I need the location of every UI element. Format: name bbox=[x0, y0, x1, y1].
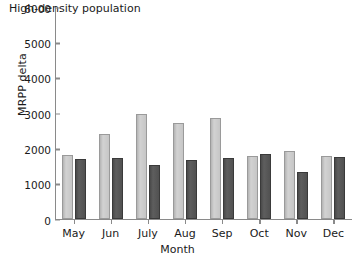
bar-group bbox=[173, 7, 197, 219]
bar-dec-light bbox=[321, 156, 332, 219]
plot-area: 0100020003000400050006000 bbox=[55, 7, 352, 219]
x-axis-tick-label: Oct bbox=[250, 227, 269, 240]
y-axis-tick-mark bbox=[55, 7, 60, 8]
x-axis-tick-label: Sep bbox=[212, 227, 233, 240]
y-axis-tick: 3000 bbox=[24, 104, 55, 123]
bar-aug-light bbox=[173, 123, 184, 219]
y-axis-tick-mark bbox=[55, 184, 60, 185]
bar-jun-dark bbox=[112, 158, 123, 219]
x-axis-tick-label: July bbox=[138, 227, 158, 240]
bar-oct-dark bbox=[260, 154, 271, 219]
bar-dec-dark bbox=[334, 157, 345, 219]
bar-july-light bbox=[136, 114, 147, 219]
x-axis-tick-label: Dec bbox=[323, 227, 344, 240]
x-axis-tick-mark bbox=[296, 219, 297, 224]
bar-may-dark bbox=[75, 159, 86, 219]
x-axis-tick-mark bbox=[185, 219, 186, 224]
bar-sep-light bbox=[210, 118, 221, 219]
bar-jun-light bbox=[99, 134, 110, 220]
bar-group bbox=[247, 7, 271, 219]
bar-chart: MRPP delta High-density population 01000… bbox=[0, 0, 355, 257]
y-axis-tick-label: 1000 bbox=[24, 179, 55, 191]
x-axis-tick-label: May bbox=[62, 227, 85, 240]
y-axis-tick: 6000 bbox=[24, 0, 55, 17]
bar-group bbox=[210, 7, 234, 219]
bar-sep-dark bbox=[223, 158, 234, 219]
x-axis-tick-mark bbox=[148, 219, 149, 224]
y-axis-tick-mark bbox=[55, 219, 60, 220]
x-axis-line bbox=[55, 219, 352, 220]
y-axis-tick: 2000 bbox=[24, 139, 55, 158]
y-axis-tick: 5000 bbox=[24, 33, 55, 52]
y-axis-tick-mark bbox=[55, 149, 60, 150]
bar-group bbox=[62, 7, 86, 219]
bar-oct-light bbox=[247, 156, 258, 219]
y-axis-tick: 0 bbox=[44, 210, 55, 229]
x-axis-tick-mark bbox=[111, 219, 112, 224]
bar-nov-light bbox=[284, 151, 295, 219]
bar-july-dark bbox=[149, 165, 160, 219]
y-axis-tick: 1000 bbox=[24, 174, 55, 193]
y-axis-tick-label: 3000 bbox=[24, 108, 55, 120]
bar-nov-dark bbox=[297, 172, 308, 219]
y-axis-tick: 4000 bbox=[24, 68, 55, 87]
y-axis-tick-mark bbox=[55, 78, 60, 79]
x-axis-tick-mark bbox=[259, 219, 260, 224]
y-axis-tick-label: 6000 bbox=[24, 2, 55, 14]
bar-group bbox=[321, 7, 345, 219]
y-axis-tick-label: 0 bbox=[44, 214, 55, 226]
y-axis-tick-mark bbox=[55, 43, 60, 44]
bar-aug-dark bbox=[186, 160, 197, 219]
bar-group bbox=[284, 7, 308, 219]
y-axis-tick-mark bbox=[55, 113, 60, 114]
y-axis-tick-label: 5000 bbox=[24, 37, 55, 49]
x-axis-title: Month bbox=[0, 243, 355, 256]
x-axis-tick-label: Aug bbox=[174, 227, 195, 240]
bar-may-light bbox=[62, 155, 73, 219]
bar-group bbox=[136, 7, 160, 219]
y-axis-tick-label: 2000 bbox=[24, 143, 55, 155]
x-axis-tick-label: Nov bbox=[286, 227, 307, 240]
x-axis-tick-mark bbox=[222, 219, 223, 224]
bar-group bbox=[99, 7, 123, 219]
y-axis-tick-label: 4000 bbox=[24, 73, 55, 85]
x-axis-tick-mark bbox=[74, 219, 75, 224]
x-axis-tick-label: Jun bbox=[102, 227, 119, 240]
x-axis-tick-mark bbox=[333, 219, 334, 224]
